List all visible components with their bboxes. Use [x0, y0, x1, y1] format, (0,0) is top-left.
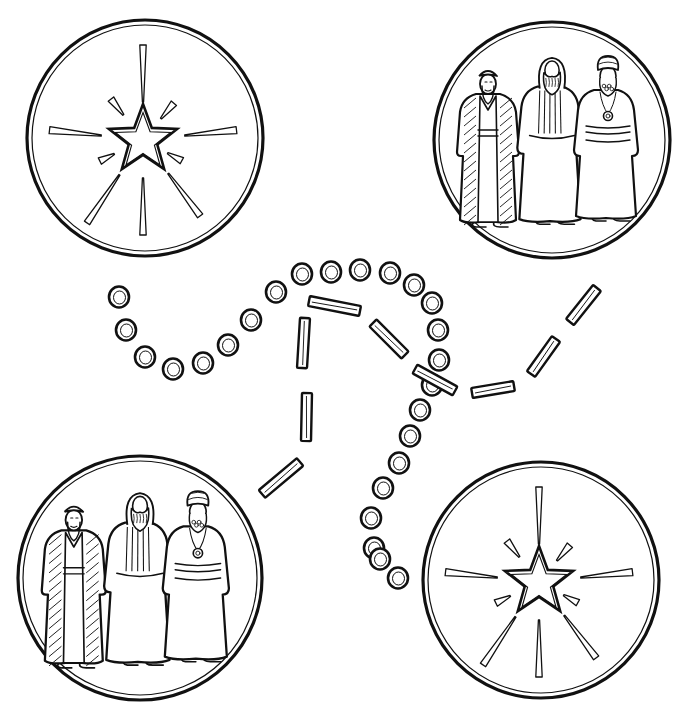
path-dash	[259, 458, 303, 498]
artwork	[0, 0, 688, 722]
path-dot	[321, 262, 341, 283]
path-dot	[218, 335, 238, 356]
medallion-magi-bottom-left	[18, 456, 262, 700]
path-dot	[163, 359, 183, 380]
path-dot	[422, 293, 442, 314]
path-dot	[109, 287, 129, 308]
path-dot	[116, 320, 136, 341]
path-dot	[241, 310, 261, 331]
path-dash	[566, 285, 601, 325]
path-dot	[266, 282, 286, 303]
path-dot	[428, 320, 448, 341]
medallion-star-bottom-right	[423, 462, 659, 698]
path-dot	[389, 453, 409, 474]
medallion-magi-top-right	[434, 22, 670, 258]
coloring-page: Wise men following the star — path color…	[0, 0, 688, 722]
path-dot	[380, 263, 400, 284]
path-dot	[373, 478, 393, 499]
path-dot	[429, 350, 449, 371]
path-dash	[301, 393, 312, 441]
path-dash	[527, 336, 560, 377]
path-dot	[370, 549, 390, 570]
path-dot	[388, 568, 408, 589]
path-dot	[410, 400, 430, 421]
path-dash	[297, 318, 310, 369]
path-dash	[471, 381, 515, 398]
path-dot	[404, 275, 424, 296]
medallion-layer	[18, 20, 670, 700]
path-dot	[361, 508, 381, 529]
path-dot	[400, 426, 420, 447]
path-dot	[193, 353, 213, 374]
path-dash	[308, 296, 361, 316]
medallion-star-top-left	[27, 20, 263, 256]
path-dash	[369, 319, 408, 358]
path-dot	[135, 347, 155, 368]
path-dot	[292, 264, 312, 285]
path-dot	[350, 260, 370, 281]
